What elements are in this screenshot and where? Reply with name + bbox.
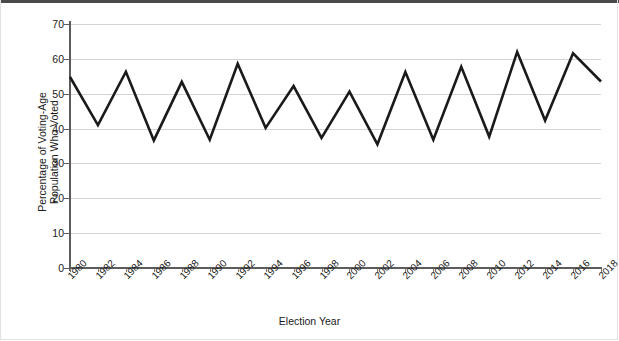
x-tick-mark — [433, 269, 434, 272]
x-tick-mark — [294, 269, 295, 272]
x-tick-mark — [266, 269, 267, 272]
data-series-line — [0, 0, 619, 341]
x-tick-mark — [322, 269, 323, 272]
x-tick-mark — [517, 269, 518, 272]
x-tick-mark — [126, 269, 127, 272]
y-tick-mark — [64, 129, 70, 130]
x-tick-mark — [182, 269, 183, 272]
y-tick-mark — [64, 233, 70, 234]
x-tick-mark — [238, 269, 239, 272]
x-tick-mark — [70, 269, 71, 272]
y-tick-mark — [64, 59, 70, 60]
x-tick-mark — [601, 269, 602, 272]
x-tick-mark — [405, 269, 406, 272]
y-tick-mark — [64, 198, 70, 199]
chart-page: 010203040506070 Percentage of Voting-Age… — [0, 0, 619, 341]
y-tick-mark — [64, 24, 70, 25]
x-tick-mark — [573, 269, 574, 272]
y-tick-mark — [64, 163, 70, 164]
x-tick-mark — [377, 269, 378, 272]
x-tick-mark — [154, 269, 155, 272]
x-tick-mark — [461, 269, 462, 272]
x-tick-mark — [210, 269, 211, 272]
x-tick-mark — [349, 269, 350, 272]
x-tick-mark — [489, 269, 490, 272]
x-tick-mark — [98, 269, 99, 272]
y-tick-mark — [64, 94, 70, 95]
x-tick-mark — [545, 269, 546, 272]
